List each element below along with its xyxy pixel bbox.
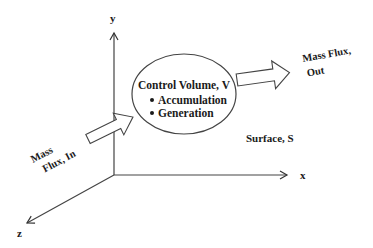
svg-text:Out: Out <box>306 64 326 78</box>
control-volume-item: Accumulation <box>150 94 228 106</box>
surface-label: Surface, S <box>246 132 294 144</box>
svg-text:Mass Flux,: Mass Flux, <box>301 45 352 64</box>
mass-flux-in-arrow <box>83 106 138 149</box>
y-axis-label: y <box>110 12 116 24</box>
bullet-icon <box>150 111 154 115</box>
control-volume-item: Generation <box>150 107 214 119</box>
mass-flux-out-arrow <box>235 59 291 94</box>
bullet-icon <box>150 98 154 102</box>
control-volume-title: Control Volume, V <box>138 79 231 91</box>
mass-flux-in-label: Mass Flux, In <box>29 135 78 177</box>
z-axis-label: z <box>17 227 22 239</box>
control-volume-item-generation: Generation <box>158 107 214 119</box>
mass-flux-out-label: Mass Flux, Out <box>301 45 354 79</box>
control-volume-item-accumulation: Accumulation <box>158 94 228 106</box>
x-axis-label: x <box>300 169 306 181</box>
z-axis <box>27 175 114 223</box>
control-volume-diagram: y x z Control Volume, V Accumulation Gen… <box>0 0 373 248</box>
